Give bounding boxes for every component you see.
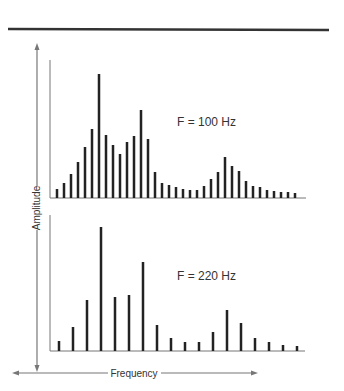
bars <box>58 227 299 351</box>
harmonic-bar <box>100 227 103 351</box>
harmonic-bar <box>203 186 206 198</box>
harmonic-bar <box>238 171 241 198</box>
arrow-up-icon <box>35 43 40 50</box>
harmonic-bar <box>226 310 229 351</box>
arrow-down-icon <box>35 365 40 372</box>
harmonic-bar <box>126 142 129 198</box>
harmonic-bar <box>77 162 80 198</box>
harmonic-bar <box>287 192 290 198</box>
harmonic-bar <box>140 110 143 198</box>
harmonic-bar <box>210 179 213 198</box>
harmonic-bar <box>266 190 269 198</box>
harmonic-bar <box>273 191 276 198</box>
harmonic-bar <box>142 262 145 351</box>
harmonic-bar <box>196 190 199 198</box>
harmonic-bar <box>252 186 255 198</box>
harmonic-bar <box>212 332 215 351</box>
harmonic-bar <box>154 172 157 198</box>
spectrum-chart-220hz: F = 220 Hz <box>50 215 305 351</box>
harmonic-bar <box>84 147 87 198</box>
harmonic-bar <box>231 166 234 198</box>
harmonic-bar <box>245 181 248 198</box>
harmonic-bar <box>184 342 187 351</box>
harmonic-bar <box>98 74 101 198</box>
harmonic-bar <box>70 174 73 198</box>
harmonic-bar <box>198 342 201 351</box>
harmonic-bar <box>91 129 94 198</box>
bars <box>56 74 297 198</box>
harmonic-bar <box>254 338 257 351</box>
harmonic-bar <box>259 187 262 198</box>
chart-title: F = 100 Hz <box>177 115 236 129</box>
frequency-label: Frequency <box>110 368 157 379</box>
harmonic-bar <box>72 327 75 351</box>
harmonic-bar <box>105 135 108 198</box>
harmonic-bar <box>294 193 297 198</box>
harmonic-bar <box>170 338 173 351</box>
amplitude-label: Amplitude <box>31 185 42 230</box>
harmonic-bar <box>147 139 150 198</box>
harmonic-bar <box>161 183 164 198</box>
harmonic-bar <box>119 154 122 198</box>
harmonic-bar <box>86 300 89 351</box>
harmonic-bar <box>168 185 171 198</box>
spectrum-figure: Amplitude Frequency F = 100 Hz F = 220 H… <box>0 0 344 391</box>
frequency-axis-arrow: Frequency <box>12 368 258 379</box>
harmonic-bar <box>296 346 299 351</box>
top-rule <box>8 29 329 30</box>
chart-title: F = 220 Hz <box>177 269 236 283</box>
arrow-right-icon <box>251 371 258 376</box>
harmonic-bar <box>217 172 220 198</box>
harmonic-bar <box>112 145 115 198</box>
arrow-left-icon <box>12 371 19 376</box>
harmonic-bar <box>268 342 271 351</box>
harmonic-bar <box>156 325 159 351</box>
harmonic-bar <box>175 187 178 198</box>
harmonic-bar <box>280 192 283 198</box>
harmonic-bar <box>189 190 192 198</box>
harmonic-bar <box>58 341 61 351</box>
harmonic-bar <box>56 189 59 198</box>
harmonic-bar <box>240 323 243 351</box>
harmonic-bar <box>224 157 227 198</box>
harmonic-bar <box>282 345 285 351</box>
harmonic-bar <box>128 295 131 351</box>
harmonic-bar <box>63 183 66 198</box>
harmonic-bar <box>182 189 185 198</box>
harmonic-bar <box>133 136 136 198</box>
amplitude-axis-arrow: Amplitude <box>31 43 42 372</box>
harmonic-bar <box>114 297 117 351</box>
spectrum-chart-100hz: F = 100 Hz <box>50 60 306 198</box>
